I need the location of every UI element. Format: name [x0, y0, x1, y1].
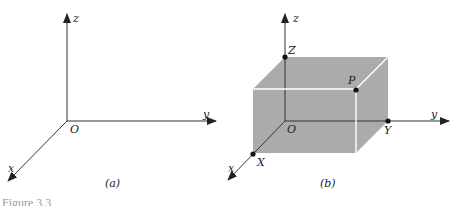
origin-label: O [70, 123, 79, 136]
origin-label: O [287, 123, 296, 136]
point-z-label: Z [287, 44, 296, 57]
z-axis-label: z [292, 12, 299, 25]
point-z [282, 54, 287, 59]
x-axis [8, 121, 67, 181]
point-y-label: Y [384, 124, 393, 137]
point-x-label: X [256, 156, 266, 169]
panel-b-label: (b) [320, 177, 336, 190]
y-axis-label: y [430, 108, 438, 121]
point-p [353, 87, 358, 92]
panel-a: z y x O (a) [8, 12, 216, 190]
panel-b: z y x O Z P Y X (b) [228, 12, 449, 190]
z-axis-label: z [72, 12, 79, 25]
point-x [250, 151, 255, 156]
point-y [385, 118, 390, 123]
coordinate-figure: z y x O (a) z y x O Z P Y X (b) [0, 0, 454, 206]
figure-caption: Figure 3.3 [2, 196, 51, 206]
panel-a-label: (a) [105, 177, 120, 190]
x-axis-label: x [8, 162, 15, 175]
y-axis-label: y [202, 108, 210, 121]
point-p-label: P [347, 74, 356, 87]
x-axis-label: x [228, 162, 235, 175]
